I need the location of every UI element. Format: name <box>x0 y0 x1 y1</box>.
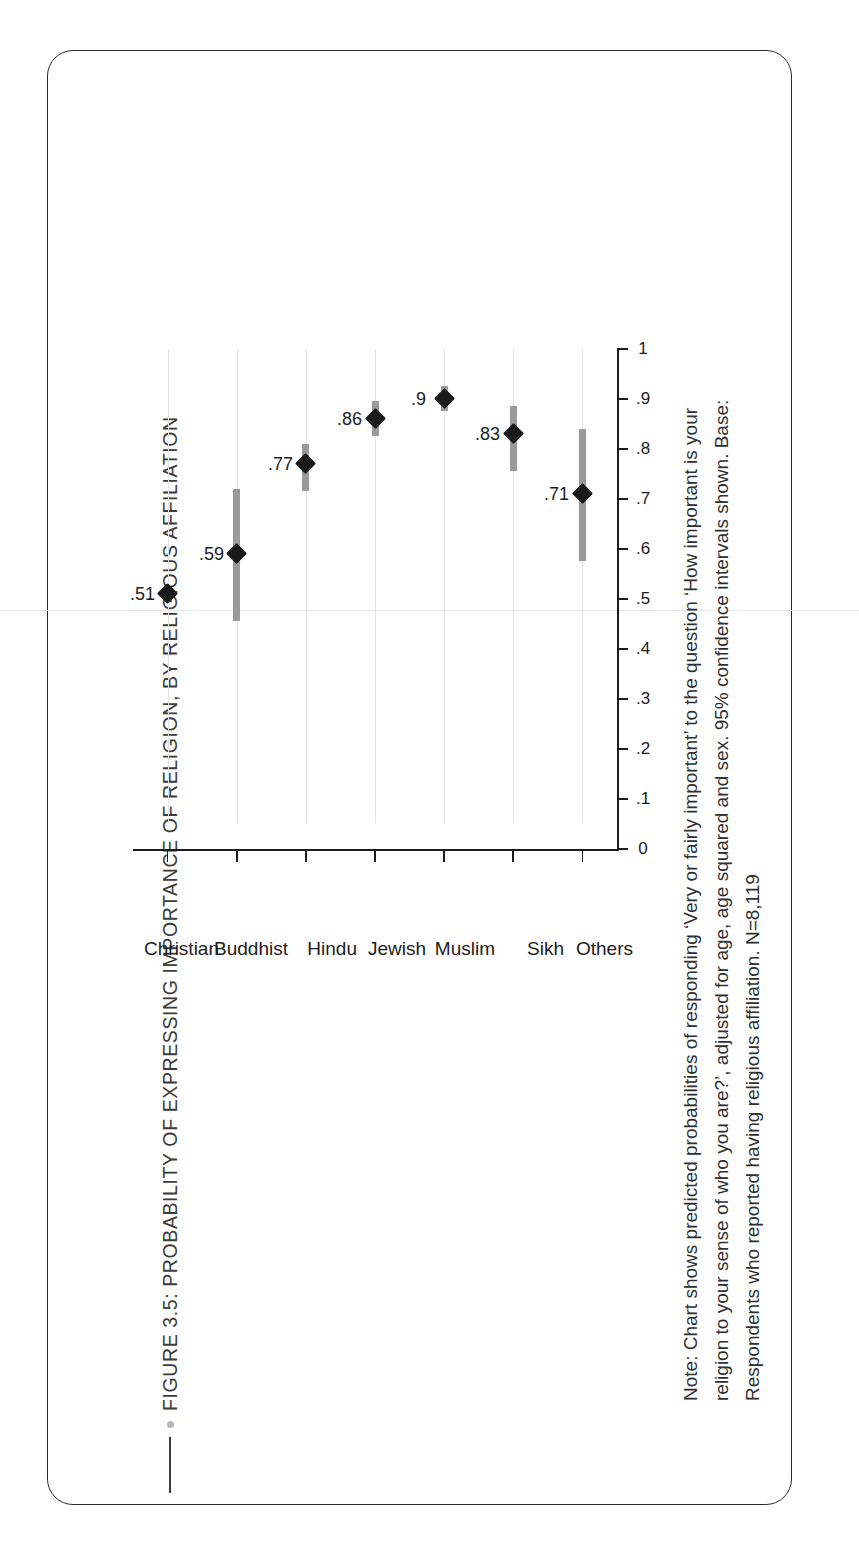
category-gridline <box>444 349 445 823</box>
category-axis <box>133 849 619 851</box>
chart-plot: 0.1.2.3.4.5.6.7.8.91Christian.51Buddhist… <box>125 347 665 975</box>
value-axis-tick-label: .7 <box>623 489 663 509</box>
figure-note-text: Note: Chart shows predicted probabilitie… <box>675 381 768 1401</box>
category-gridline <box>582 349 583 823</box>
data-point-label: .51 <box>119 584 165 605</box>
chart-container: 0.1.2.3.4.5.6.7.8.91Christian.51Buddhist… <box>125 347 665 975</box>
value-axis-tick-label: .2 <box>623 739 663 759</box>
value-axis-tick-label: .6 <box>623 539 663 559</box>
category-label-others: Others <box>529 938 633 960</box>
value-axis-tick-label: .4 <box>623 639 663 659</box>
title-bullet-dot-icon <box>167 1421 174 1428</box>
value-axis-tick-label: 0 <box>623 839 663 859</box>
value-axis-tick-label: .5 <box>623 589 663 609</box>
category-axis-tick <box>443 851 445 862</box>
category-axis-tick <box>374 851 376 862</box>
value-axis-tick-label: .9 <box>623 389 663 409</box>
value-axis-tick-label: .1 <box>623 789 663 809</box>
category-axis-tick <box>512 851 514 862</box>
value-axis-tick-label: .8 <box>623 439 663 459</box>
data-point-label: .71 <box>534 484 580 505</box>
category-axis-tick <box>582 851 584 862</box>
category-axis-tick <box>236 851 238 862</box>
data-point-label: .59 <box>188 544 234 565</box>
value-axis-tick-label: .3 <box>623 689 663 709</box>
data-point-label: .9 <box>396 389 442 410</box>
title-rule <box>169 1437 170 1493</box>
value-axis-tick-label: 1 <box>623 339 663 359</box>
data-point-label: .77 <box>257 454 303 475</box>
category-gridline <box>306 349 307 823</box>
category-axis-tick <box>167 851 169 862</box>
data-point-label: .83 <box>465 424 511 445</box>
category-axis-tick <box>305 851 307 862</box>
figure-note-block: Note: Chart shows predicted probabilitie… <box>675 381 771 1401</box>
data-point-label: .86 <box>327 409 373 430</box>
